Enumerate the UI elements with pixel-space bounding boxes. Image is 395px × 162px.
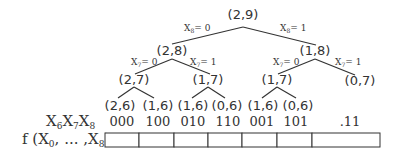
node-root: (2,9) bbox=[228, 7, 259, 22]
edge-17b-left bbox=[262, 87, 277, 98]
node-lr: (1,7) bbox=[193, 72, 224, 87]
function-cell bbox=[242, 133, 277, 147]
edge-17b-right bbox=[277, 87, 296, 98]
code-value: 110 bbox=[216, 114, 241, 129]
node-right-1: (1,8) bbox=[300, 43, 331, 58]
node-left-1: (2,8) bbox=[157, 43, 188, 58]
function-cell bbox=[139, 133, 174, 147]
leaf-node: (0,6) bbox=[283, 98, 314, 113]
node-ll: (2,7) bbox=[119, 72, 150, 87]
decision-tree-diagram: (2,9) (2,8) (1,8) (2,7) (1,7) (1,7) (0,7… bbox=[0, 0, 395, 162]
edge-label-x7-1-left: X7= 1 bbox=[190, 57, 216, 68]
edge-label-x7-1-right: X7= 1 bbox=[335, 57, 361, 68]
leaf-node: (1,6) bbox=[178, 98, 209, 113]
function-cell bbox=[312, 133, 380, 147]
edge-17a-right bbox=[208, 87, 225, 98]
leaf-node: (1,6) bbox=[248, 98, 279, 113]
edge-label-x8-1: X8= 1 bbox=[280, 23, 306, 34]
function-cell bbox=[105, 133, 139, 147]
leaf-node: (2,6) bbox=[105, 98, 136, 113]
codes-row-label: X6X7X8 bbox=[46, 112, 96, 131]
edge-label-x8-0: X8= 0 bbox=[184, 23, 211, 34]
edge-17a-left bbox=[192, 87, 208, 98]
edge-label-x7-0-right: X7= 0 bbox=[273, 57, 300, 68]
function-cell bbox=[208, 133, 242, 147]
code-value: 101 bbox=[284, 114, 309, 129]
node-rr: (0,7) bbox=[345, 73, 376, 88]
leaf-node: (0,6) bbox=[212, 98, 243, 113]
edge-label-x7-0-left: X7= 0 bbox=[131, 57, 158, 68]
code-value: 010 bbox=[181, 114, 206, 129]
function-cell bbox=[277, 133, 312, 147]
code-value: 001 bbox=[250, 114, 275, 129]
leaf-node: (1,6) bbox=[143, 98, 174, 113]
function-cell bbox=[174, 133, 208, 147]
function-row-label: f (X0, ... ,X8) bbox=[22, 130, 110, 149]
code-value: 000 bbox=[110, 114, 135, 129]
code-value: .11 bbox=[340, 114, 361, 129]
node-rl: (1,7) bbox=[262, 72, 293, 87]
edge-27-right bbox=[134, 87, 154, 98]
code-value: 100 bbox=[146, 114, 171, 129]
function-value-table bbox=[105, 133, 380, 147]
edge-27-left bbox=[118, 87, 134, 98]
